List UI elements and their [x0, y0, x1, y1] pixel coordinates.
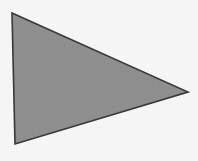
image-canvas: [0, 0, 198, 161]
shape-canvas-svg: [0, 0, 198, 161]
